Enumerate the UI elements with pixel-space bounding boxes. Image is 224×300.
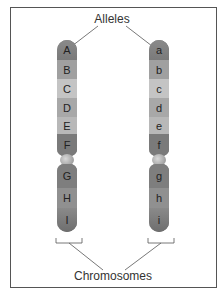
chromosome-right-upper-arm: a b c d e f [149, 40, 169, 156]
connector-lines [0, 0, 224, 300]
allele-band: e [149, 117, 169, 134]
allele-band: B [57, 60, 77, 79]
allele-band: i [149, 208, 169, 232]
chromosome-left-upper-arm: A B C D E F [57, 40, 77, 156]
allele-band: A [57, 40, 77, 60]
chromosome-right-lower-arm: g h i [149, 164, 169, 232]
allele-band: g [149, 164, 169, 188]
allele-band: D [57, 98, 77, 117]
chromosome-left-lower-arm: G H I [57, 164, 77, 232]
allele-band: E [57, 117, 77, 134]
allele-band: H [57, 188, 77, 208]
allele-band: d [149, 98, 169, 117]
alleles-label: Alleles [92, 12, 132, 26]
chromosomes-label: Chromosomes [70, 269, 156, 283]
allele-band: C [57, 79, 77, 98]
allele-band: c [149, 79, 169, 98]
allele-band: G [57, 164, 77, 188]
allele-band: F [57, 134, 77, 156]
allele-band: h [149, 188, 169, 208]
allele-band: b [149, 60, 169, 79]
allele-band: a [149, 40, 169, 60]
allele-band: I [57, 208, 77, 232]
allele-band: f [149, 134, 169, 156]
